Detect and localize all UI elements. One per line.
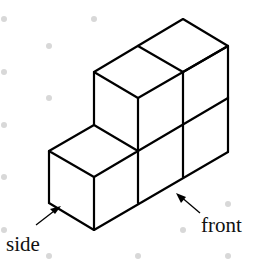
side-arrow: [36, 206, 61, 225]
front-label: front: [201, 213, 242, 237]
cube-stack: [49, 19, 228, 230]
isometric-figure: side front: [0, 0, 261, 265]
side-label: side: [6, 232, 40, 256]
front-arrow: [176, 193, 200, 213]
